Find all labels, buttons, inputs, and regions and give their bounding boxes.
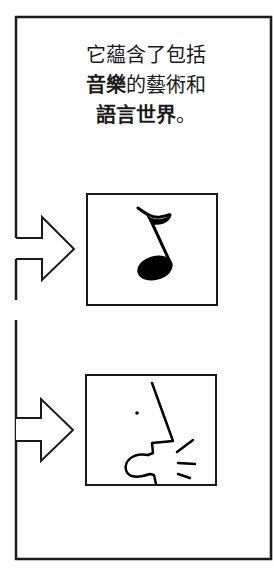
music-panel xyxy=(87,194,217,305)
caption-line-3: 語言世界。 xyxy=(40,100,252,130)
caption-language-word: 語言世界 xyxy=(96,103,176,127)
arrow-to-speech xyxy=(16,399,73,461)
caption-music-word: 音樂 xyxy=(86,73,126,97)
caption-line-1: 它蘊含了包括 xyxy=(40,40,252,70)
caption-line-3-rest: 。 xyxy=(176,103,196,127)
speech-panel xyxy=(86,375,216,485)
arrow-to-music xyxy=(16,217,74,280)
caption: 它蘊含了包括 音樂的藝術和 語言世界。 xyxy=(40,40,252,130)
caption-line-2-rest: 的藝術和 xyxy=(126,73,206,97)
caption-line-2: 音樂的藝術和 xyxy=(40,70,252,100)
